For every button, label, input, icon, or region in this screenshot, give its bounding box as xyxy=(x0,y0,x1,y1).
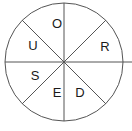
wheel-diagram: O R D E S U xyxy=(0,0,132,131)
sector-label-u: U xyxy=(28,38,37,53)
sector-label-s: S xyxy=(31,68,40,83)
sector-label-o: O xyxy=(52,16,62,31)
sector-label-d: D xyxy=(75,85,84,100)
sector-label-r: R xyxy=(100,39,109,54)
wheel-svg: O R D E S U xyxy=(0,0,132,131)
sector-label-e: E xyxy=(53,85,62,100)
